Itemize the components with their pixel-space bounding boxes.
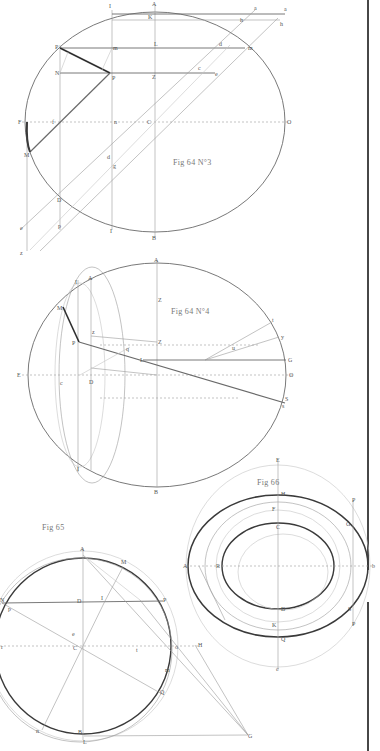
point-label: E xyxy=(17,372,21,378)
point-label: Z xyxy=(158,339,162,345)
point-label: f xyxy=(52,119,54,125)
point-label: I xyxy=(75,279,77,285)
point-label: R xyxy=(216,563,220,569)
point-label: Q xyxy=(281,636,286,642)
figure-title: Fig 65 xyxy=(42,523,64,532)
figure-title: Fig 64 N°4 xyxy=(171,307,210,316)
point-label: H xyxy=(198,642,203,648)
point-label: Z xyxy=(158,297,162,303)
point-label: e xyxy=(20,225,23,231)
point-label: L xyxy=(154,41,158,47)
point-label: S xyxy=(285,396,288,402)
point-label: A xyxy=(183,563,188,569)
point-label: p xyxy=(8,606,11,612)
point-label: K xyxy=(148,14,153,20)
point-label: G xyxy=(346,521,351,527)
point-label: L xyxy=(140,357,144,363)
point-label: E xyxy=(276,457,280,463)
point-label: L xyxy=(83,739,87,745)
point-label: g xyxy=(113,163,116,169)
point-label: a xyxy=(254,5,257,11)
point-label: D xyxy=(57,197,62,203)
point-label: P xyxy=(352,497,356,503)
point-label: n xyxy=(114,119,117,125)
point-label: I xyxy=(101,595,103,601)
figure-64-n3: Fig 64 N°3 A I K a a h h P m L d m N P Z… xyxy=(18,1,292,256)
point-label: h xyxy=(280,21,283,27)
point-label: d xyxy=(107,154,110,160)
point-label: B xyxy=(152,235,156,241)
point-label: u xyxy=(232,345,235,351)
figure-65: Fig 65 A M D I P N p e C r t H o Q n m B… xyxy=(0,523,253,745)
point-label: M xyxy=(24,152,30,158)
point-label: m xyxy=(165,667,170,673)
point-label: G xyxy=(248,733,253,739)
point-label: o xyxy=(175,644,178,650)
point-label: t xyxy=(272,317,274,323)
point-label: A xyxy=(154,257,159,263)
point-label: c xyxy=(276,666,279,672)
point-label: m xyxy=(113,45,118,51)
point-label: n xyxy=(36,728,39,734)
point-label: e xyxy=(215,71,218,77)
point-label: I xyxy=(110,228,112,234)
figure-64-n4: Fig 64 N°4 A I A Z M z P Z q L G t y u E… xyxy=(17,257,294,495)
point-label: p xyxy=(58,223,61,229)
point-label: z xyxy=(92,329,95,335)
point-label: s xyxy=(282,403,285,409)
point-label: c xyxy=(198,65,201,71)
point-label: y xyxy=(281,334,284,340)
point-label: I xyxy=(109,3,111,9)
point-label: N xyxy=(55,70,60,76)
point-label: b xyxy=(372,563,375,569)
point-label: M xyxy=(121,559,127,565)
point-label: C xyxy=(73,645,77,651)
point-label: H xyxy=(281,491,286,497)
point-label: Q xyxy=(160,689,165,695)
point-label: F xyxy=(18,119,22,125)
point-label: B xyxy=(78,729,82,735)
engraved-plate: Fig 64 N°3 A I K a a h h P m L d m N P Z… xyxy=(0,0,380,751)
figure-66: Fig 66 E H P F C G A R b D S P K Q c xyxy=(183,457,375,672)
point-label: C xyxy=(147,119,151,125)
point-label: D xyxy=(89,379,94,385)
figure-title: Fig 64 N°3 xyxy=(173,158,212,167)
point-label: I xyxy=(77,466,79,472)
point-label: z xyxy=(20,250,23,256)
point-label: S xyxy=(348,606,351,612)
point-label: t xyxy=(136,647,138,653)
point-label: N xyxy=(0,597,5,603)
point-label: P xyxy=(72,340,76,346)
point-label: m xyxy=(248,45,253,51)
point-label: r xyxy=(1,644,3,650)
point-label: O xyxy=(289,372,294,378)
point-label: G xyxy=(288,357,293,363)
point-label: c xyxy=(60,380,63,386)
point-label: D xyxy=(77,598,82,604)
point-label: D xyxy=(281,606,286,612)
point-label: F xyxy=(272,506,276,512)
point-label: h xyxy=(240,17,243,23)
point-label: d xyxy=(219,41,222,47)
point-label: A xyxy=(88,275,93,281)
point-label: a xyxy=(284,6,287,12)
point-label: Z xyxy=(152,74,156,80)
point-label: P xyxy=(112,75,116,81)
point-label: C xyxy=(276,524,280,530)
point-label: A xyxy=(80,546,85,552)
point-label: A xyxy=(152,1,157,7)
point-label: P xyxy=(55,44,59,50)
point-label: P xyxy=(352,621,356,627)
point-label: e xyxy=(72,631,75,637)
point-label: M xyxy=(57,305,63,311)
point-label: K xyxy=(272,622,277,628)
point-label: B xyxy=(154,489,158,495)
figure-title: Fig 66 xyxy=(257,478,279,487)
point-label: q xyxy=(126,346,129,352)
point-label: O xyxy=(287,119,292,125)
